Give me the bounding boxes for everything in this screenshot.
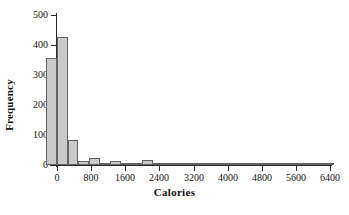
histogram-bar xyxy=(57,37,68,165)
histogram-bar xyxy=(46,58,57,165)
x-tick xyxy=(296,166,297,171)
histogram-bar xyxy=(100,163,111,165)
x-tick xyxy=(228,166,229,171)
histogram-bar xyxy=(206,163,217,165)
histogram-bar xyxy=(281,163,292,165)
x-tick-label: 2400 xyxy=(139,172,179,183)
x-tick xyxy=(159,166,160,171)
histogram-bar xyxy=(89,158,100,165)
histogram-bar xyxy=(228,163,239,165)
histogram-bar xyxy=(249,163,260,165)
histogram-bar xyxy=(292,163,303,165)
x-tick xyxy=(194,166,195,171)
x-tick xyxy=(125,166,126,171)
plot-area xyxy=(57,15,330,165)
histogram-bar xyxy=(196,163,207,165)
histogram-bar xyxy=(270,163,281,165)
histogram-bar xyxy=(142,160,153,165)
y-axis-title: Frequency xyxy=(2,50,16,160)
histogram-bar xyxy=(302,163,313,165)
histogram-bar xyxy=(174,163,185,165)
y-tick-label: 200 xyxy=(18,99,48,110)
x-axis-line xyxy=(50,165,332,166)
y-axis-title-text: Frequency xyxy=(3,79,15,131)
y-tick-label: 400 xyxy=(18,39,48,50)
histogram-bar xyxy=(185,163,196,165)
histogram-bar xyxy=(78,161,89,165)
histogram-bar xyxy=(324,163,335,165)
x-axis-title: Calories xyxy=(0,186,349,198)
histogram-bar xyxy=(238,163,249,165)
histogram-bar xyxy=(132,163,143,165)
histogram-bar xyxy=(164,163,175,165)
x-tick xyxy=(57,166,58,171)
histogram-bar xyxy=(110,161,121,166)
x-tick-label: 6400 xyxy=(310,172,349,183)
histogram-chart: Frequency 0100200300400500 0800160024003… xyxy=(0,0,349,215)
y-tick-label: 300 xyxy=(18,69,48,80)
x-tick xyxy=(91,166,92,171)
x-tick xyxy=(262,166,263,171)
histogram-bar xyxy=(313,163,324,165)
histogram-bar xyxy=(121,163,132,165)
histogram-bar xyxy=(260,163,271,165)
y-tick-label: 500 xyxy=(18,9,48,20)
y-tick-label: 0 xyxy=(18,159,48,170)
x-tick xyxy=(330,166,331,171)
histogram-bar xyxy=(153,163,164,165)
histogram-bar xyxy=(68,140,79,166)
histogram-bar xyxy=(217,163,228,165)
y-tick-label: 100 xyxy=(18,129,48,140)
